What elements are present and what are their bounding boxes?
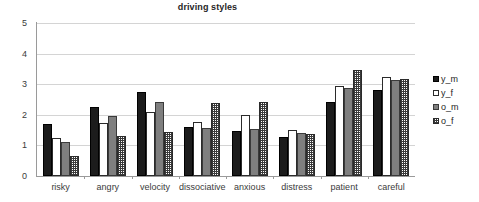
- legend-item-o_m[interactable]: o_m: [433, 102, 459, 112]
- bar-y_f-patient[interactable]: [335, 86, 344, 176]
- bar-group: [179, 23, 226, 176]
- bar-y_f-distress[interactable]: [288, 130, 297, 176]
- bar-chart: driving styles 012345 riskyangryvelocity…: [0, 0, 479, 202]
- bar-y_m-angry[interactable]: [90, 107, 99, 176]
- bar-group: [132, 23, 179, 176]
- y-tick-label: 5: [22, 18, 27, 28]
- bar-o_m-anxious[interactable]: [250, 129, 259, 176]
- legend-item-o_f[interactable]: o_f: [433, 116, 459, 126]
- bar-group: [368, 23, 415, 176]
- bar-y_m-distress[interactable]: [279, 137, 288, 176]
- bar-group: [84, 23, 131, 176]
- y-tick-label: 0: [22, 171, 27, 181]
- bar-o_m-careful[interactable]: [391, 80, 400, 176]
- bar-o_f-careful[interactable]: [400, 79, 409, 176]
- bar-y_m-velocity[interactable]: [137, 92, 146, 176]
- bar-y_m-risky[interactable]: [43, 124, 52, 176]
- legend-label: y_m: [441, 74, 458, 84]
- bar-o_m-dissociative[interactable]: [202, 128, 211, 176]
- legend-item-y_m[interactable]: y_m: [433, 74, 459, 84]
- bar-group: [273, 23, 320, 176]
- y-tick-label: 2: [22, 110, 27, 120]
- x-axis-category-labels: riskyangryvelocitydissociativeanxiousdis…: [37, 182, 415, 192]
- bar-o_m-velocity[interactable]: [155, 102, 164, 176]
- bar-y_f-dissociative[interactable]: [193, 122, 202, 176]
- bar-y_f-anxious[interactable]: [241, 115, 250, 176]
- x-category-label: angry: [84, 182, 131, 192]
- bar-groups: [37, 23, 415, 176]
- y-tick-label: 3: [22, 79, 27, 89]
- bar-y_f-careful[interactable]: [382, 77, 391, 176]
- bar-y_f-risky[interactable]: [52, 138, 61, 176]
- bar-y_m-dissociative[interactable]: [184, 127, 193, 176]
- legend-label: o_f: [441, 116, 454, 126]
- x-category-label: velocity: [132, 182, 179, 192]
- legend-swatch-icon: [433, 90, 439, 96]
- y-tick-label: 4: [22, 49, 27, 59]
- bar-y_f-angry[interactable]: [99, 123, 108, 176]
- x-category-label: risky: [37, 182, 84, 192]
- bar-o_f-anxious[interactable]: [259, 102, 268, 176]
- bar-o_f-velocity[interactable]: [164, 132, 173, 176]
- x-category-label: distress: [273, 182, 320, 192]
- bar-group: [321, 23, 368, 176]
- y-tick-label: 1: [22, 140, 27, 150]
- bar-y_m-anxious[interactable]: [232, 131, 241, 176]
- bar-o_f-risky[interactable]: [70, 156, 79, 176]
- x-category-label: patient: [321, 182, 368, 192]
- bar-o_f-distress[interactable]: [306, 134, 315, 176]
- legend-label: o_m: [441, 102, 459, 112]
- x-category-label: anxious: [226, 182, 273, 192]
- legend-swatch-icon: [433, 104, 439, 110]
- bar-o_m-distress[interactable]: [297, 133, 306, 176]
- legend-label: y_f: [441, 88, 453, 98]
- bar-o_f-patient[interactable]: [353, 70, 362, 176]
- chart-title: driving styles: [0, 2, 415, 12]
- x-category-label: careful: [368, 182, 415, 192]
- legend-swatch-icon: [433, 76, 439, 82]
- bar-o_f-angry[interactable]: [117, 136, 126, 176]
- x-category-label: dissociative: [179, 182, 226, 192]
- bar-o_f-dissociative[interactable]: [211, 103, 220, 176]
- bar-y_m-patient[interactable]: [326, 102, 335, 176]
- bar-o_m-angry[interactable]: [108, 116, 117, 176]
- chart-legend: y_my_fo_mo_f: [433, 74, 459, 126]
- legend-item-y_f[interactable]: y_f: [433, 88, 459, 98]
- bar-y_f-velocity[interactable]: [146, 112, 155, 176]
- legend-swatch-icon: [433, 118, 439, 124]
- bar-group: [37, 23, 84, 176]
- bar-y_m-careful[interactable]: [373, 90, 382, 176]
- bar-group: [226, 23, 273, 176]
- bar-o_m-patient[interactable]: [344, 88, 353, 176]
- bar-o_m-risky[interactable]: [61, 142, 70, 176]
